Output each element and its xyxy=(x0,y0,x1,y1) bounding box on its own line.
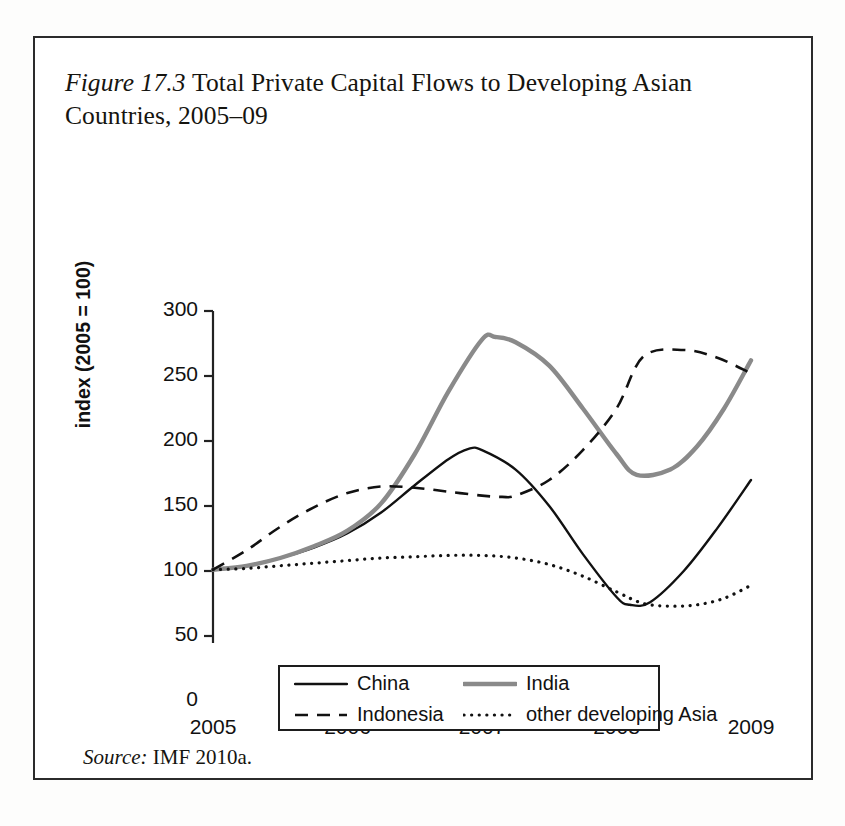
legend-item-india[interactable]: India xyxy=(463,667,569,700)
legend-row-1: China India xyxy=(280,667,658,700)
axis-lines xyxy=(204,311,751,643)
legend-line-indonesia-icon xyxy=(294,708,348,722)
series-line-india xyxy=(213,335,751,570)
legend-label-indonesia: Indonesia xyxy=(357,703,444,726)
figure-page: Figure 17.3 Total Private Capital Flows … xyxy=(0,0,845,826)
y-tick-label: 100 xyxy=(138,557,198,581)
y-tick-label: 50 xyxy=(138,622,198,646)
x-tick-label: 2005 xyxy=(168,715,258,739)
series-paths xyxy=(213,335,751,607)
source-label: Source: xyxy=(83,745,148,769)
legend-label-other-developing-asia: other developing Asia xyxy=(526,703,717,726)
legend-item-indonesia[interactable]: Indonesia xyxy=(294,698,444,731)
figure-number: Figure 17.3 xyxy=(65,68,186,97)
figure-frame: Figure 17.3 Total Private Capital Flows … xyxy=(33,36,813,780)
chart-plot-area: index (2005 = 100) 050100150200250300 20… xyxy=(35,143,811,643)
y-tick-label: 300 xyxy=(138,297,198,321)
y-tick-label: 150 xyxy=(138,492,198,516)
y-tick-label: 0 xyxy=(138,687,198,711)
series-line-indonesia xyxy=(213,349,751,569)
figure-title: Figure 17.3 Total Private Capital Flows … xyxy=(65,66,755,132)
legend-line-india-icon xyxy=(463,677,517,691)
legend-row-2: Indonesia other developing Asia xyxy=(280,698,658,731)
source-note: Source: IMF 2010a. xyxy=(83,745,252,770)
y-tick-label: 250 xyxy=(138,362,198,386)
legend-item-other-developing-asia[interactable]: other developing Asia xyxy=(463,698,717,731)
legend-line-china-icon xyxy=(294,677,348,691)
legend-item-china[interactable]: China xyxy=(294,667,409,700)
chart-legend: China India Indonesia other developing A… xyxy=(278,665,660,731)
series-line-other-developing-asia xyxy=(213,555,751,606)
legend-label-india: India xyxy=(526,672,569,695)
legend-line-other-developing-asia-icon xyxy=(463,708,517,722)
x-tick-label: 2009 xyxy=(706,715,796,739)
y-tick-label: 200 xyxy=(138,427,198,451)
source-text: IMF 2010a. xyxy=(153,745,252,769)
legend-label-china: China xyxy=(357,672,409,695)
